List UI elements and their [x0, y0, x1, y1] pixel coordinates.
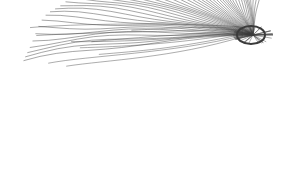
- wireframe-fan-drawing: [0, 0, 306, 178]
- line-art-canvas: [0, 0, 306, 178]
